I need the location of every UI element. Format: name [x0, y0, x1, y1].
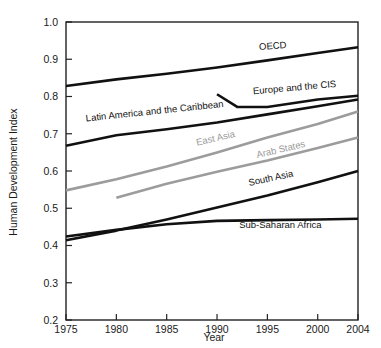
hdi-line-chart: 0.20.30.40.50.60.70.80.91.0 197519801985…: [0, 0, 381, 348]
x-tick-label: 1995: [256, 323, 280, 335]
y-tick-label: 0.3: [43, 277, 58, 289]
y-tick-label: 0.8: [43, 90, 58, 102]
series-label-sub-saharan-africa: Sub-Saharan Africa: [239, 219, 322, 230]
series-label-oecd: OECD: [259, 39, 287, 52]
x-axis-title: Year: [203, 331, 225, 343]
x-tick-label: 2004: [346, 323, 370, 335]
y-tick-label: 0.4: [43, 239, 58, 251]
y-tick-label: 0.5: [43, 202, 58, 214]
y-tick-label: 0.6: [43, 165, 58, 177]
chart-canvas: 0.20.30.40.50.60.70.80.91.0 197519801985…: [0, 0, 381, 348]
y-tick-label: 0.7: [43, 128, 58, 140]
x-tick-label: 1975: [54, 323, 78, 335]
x-tick-label: 2000: [306, 323, 330, 335]
x-tick-label: 1980: [105, 323, 129, 335]
x-tick-label: 1985: [155, 323, 179, 335]
y-axis-title: Human Development Index: [7, 108, 19, 236]
y-tick-label: 1.0: [43, 16, 58, 28]
y-tick-label: 0.9: [43, 53, 58, 65]
